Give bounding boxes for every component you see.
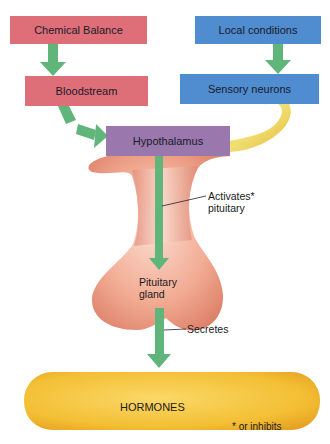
pituitary-line1: Pituitary <box>139 276 177 288</box>
secretes-leader-line <box>164 329 186 330</box>
secretes-label: Secretes <box>187 323 228 335</box>
diagram-graphics <box>0 0 330 444</box>
sensory-nerve <box>226 100 291 152</box>
node-label: Bloodstream <box>56 85 118 97</box>
node-sensory-neurons: Sensory neurons <box>180 74 319 104</box>
hormones-label: HORMONES <box>120 401 185 413</box>
node-bloodstream: Bloodstream <box>25 76 148 106</box>
node-label: Hypothalamus <box>133 135 203 147</box>
activates-line2: pituitary <box>208 202 255 214</box>
footnote: * or inhibits <box>232 421 281 433</box>
node-local-conditions: Local conditions <box>195 16 321 44</box>
pituitary-gland-label: Pituitary gland <box>139 276 177 300</box>
activates-line1: Activates* <box>208 190 255 202</box>
node-label: Chemical Balance <box>34 24 123 36</box>
activates-label: Activates* pituitary <box>208 190 255 214</box>
node-hypothalamus: Hypothalamus <box>106 126 230 156</box>
node-chemical-balance: Chemical Balance <box>10 16 147 44</box>
node-label: Sensory neurons <box>208 83 291 95</box>
node-label: Local conditions <box>219 24 298 36</box>
pituitary-line2: gland <box>139 288 177 300</box>
